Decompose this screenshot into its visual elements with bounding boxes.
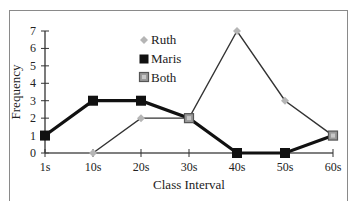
ruth-marker-icon bbox=[233, 27, 241, 35]
y-tick-label: 3 bbox=[30, 94, 36, 108]
maris-marker-icon bbox=[136, 96, 146, 106]
legend-label: Both bbox=[151, 70, 177, 85]
legend-label: Ruth bbox=[151, 32, 177, 47]
y-tick-label: 2 bbox=[30, 111, 36, 125]
series-line-maris bbox=[45, 101, 333, 153]
x-tick-label: 10s bbox=[85, 160, 102, 174]
series-lines bbox=[45, 31, 333, 153]
y-tick-label: 7 bbox=[30, 24, 36, 38]
square-marker-icon bbox=[140, 55, 149, 64]
x-tick-label: 30s bbox=[181, 160, 198, 174]
x-tick-label: 1s bbox=[40, 160, 51, 174]
y-tick-label: 5 bbox=[30, 59, 36, 73]
series-markers bbox=[40, 27, 338, 158]
x-tick-label: 20s bbox=[133, 160, 150, 174]
x-tick-label: 40s bbox=[229, 160, 246, 174]
y-tick-label: 6 bbox=[30, 41, 36, 55]
legend-item-maris: Maris bbox=[140, 51, 182, 66]
y-axis-title: Frequency bbox=[8, 64, 23, 119]
legend-label: Maris bbox=[151, 51, 181, 66]
diamond-marker-icon bbox=[140, 36, 148, 44]
x-axis: 1s10s20s30s40s50s60s bbox=[40, 149, 342, 174]
maris-marker-icon bbox=[280, 148, 290, 158]
maris-marker-icon bbox=[232, 148, 242, 158]
x-tick-label: 60s bbox=[325, 160, 342, 174]
y-tick-label: 1 bbox=[30, 129, 36, 143]
maris-marker-icon bbox=[88, 96, 98, 106]
y-tick-label: 4 bbox=[30, 76, 36, 90]
legend: Ruth Maris Both bbox=[140, 32, 182, 85]
x-tick-label: 50s bbox=[277, 160, 294, 174]
maris-marker-icon bbox=[40, 131, 50, 141]
y-tick-label: 0 bbox=[30, 146, 36, 160]
legend-item-ruth: Ruth bbox=[140, 32, 177, 47]
legend-item-both: Both bbox=[140, 70, 177, 85]
x-axis-title: Class Interval bbox=[153, 177, 225, 192]
line-chart: 01234567 1s10s20s30s40s50s60s Frequency … bbox=[0, 0, 354, 201]
